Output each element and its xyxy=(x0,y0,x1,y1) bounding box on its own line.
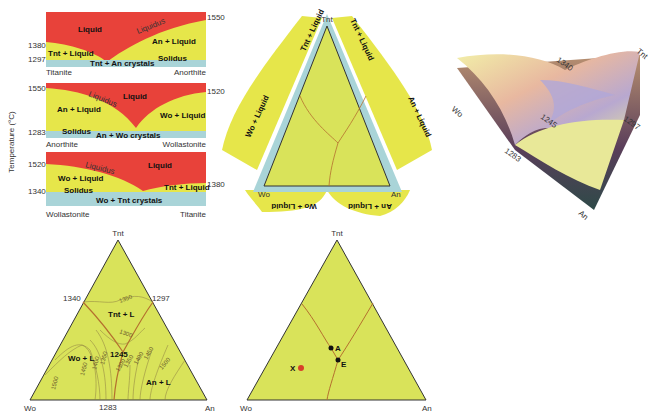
svg-text:Wo + Tnt crystals: Wo + Tnt crystals xyxy=(96,196,163,205)
y-axis-label: Temperature (°C) xyxy=(7,111,16,173)
svg-text:1520: 1520 xyxy=(207,87,225,96)
svg-text:1340: 1340 xyxy=(63,294,81,303)
svg-text:An + L: An + L xyxy=(146,378,171,387)
svg-text:Anorthite: Anorthite xyxy=(174,68,207,77)
svg-text:An: An xyxy=(577,209,590,222)
svg-text:Wo + Liquid: Wo + Liquid xyxy=(160,111,206,120)
svg-text:Liquid: Liquid xyxy=(148,161,172,170)
svg-text:Titanite: Titanite xyxy=(46,68,72,77)
svg-text:Tnt: Tnt xyxy=(112,229,124,238)
svg-text:An: An xyxy=(391,190,401,199)
svg-text:Wo: Wo xyxy=(258,190,270,199)
figure-canvas: Temperature (°C) Liquid Liquidus An + Li… xyxy=(0,0,654,417)
svg-text:X: X xyxy=(290,364,296,373)
svg-text:1297: 1297 xyxy=(152,294,170,303)
binary-panel-an-wo: Liquidus Liquid An + Liquid Wo + Liquid … xyxy=(28,83,225,149)
svg-text:Tnt + An crystals: Tnt + An crystals xyxy=(90,59,155,68)
svg-text:Anorthite: Anorthite xyxy=(46,140,79,149)
svg-text:An + Wo crystals: An + Wo crystals xyxy=(96,131,161,140)
svg-text:An: An xyxy=(205,404,215,413)
svg-text:A: A xyxy=(335,344,341,353)
point-x xyxy=(298,365,304,371)
svg-text:1340: 1340 xyxy=(28,187,46,196)
svg-text:Titanite: Titanite xyxy=(180,210,206,219)
svg-text:1380: 1380 xyxy=(28,41,46,50)
svg-text:1550: 1550 xyxy=(28,84,46,93)
svg-text:1550: 1550 xyxy=(207,13,225,22)
unfolded-ternary: Tnt Wo An Tnt + Liquid Tnt + Liquid Wo +… xyxy=(222,8,433,216)
svg-text:Solidus: Solidus xyxy=(64,186,93,195)
binary-panel-tnt-an: Liquid Liquidus An + Liquid Tnt + Liquid… xyxy=(28,12,225,77)
svg-text:Wo + Liquid: Wo + Liquid xyxy=(271,202,317,211)
svg-text:Solidus: Solidus xyxy=(62,127,91,136)
crystallization-path-diagram: Tnt Wo An X A E xyxy=(240,229,432,413)
svg-text:1283: 1283 xyxy=(99,403,117,412)
svg-text:An: An xyxy=(422,404,432,413)
svg-text:Wo + Liquid: Wo + Liquid xyxy=(58,174,104,183)
svg-text:Tnt: Tnt xyxy=(331,229,343,238)
svg-text:Wollastonite: Wollastonite xyxy=(46,210,90,219)
svg-text:Tnt + L: Tnt + L xyxy=(108,310,135,319)
svg-text:Wo + L: Wo + L xyxy=(68,354,94,363)
svg-text:Tnt + Liquid: Tnt + Liquid xyxy=(164,183,210,192)
svg-text:An + Liquid: An + Liquid xyxy=(348,202,392,211)
liquidus-projection: Tnt Wo An 1340 1297 1283 1245 Tnt + L Wo… xyxy=(24,229,215,413)
svg-text:Liquid: Liquid xyxy=(123,92,147,101)
svg-text:Wo: Wo xyxy=(450,105,465,120)
svg-text:1283: 1283 xyxy=(28,128,46,137)
svg-text:An + Liquid: An + Liquid xyxy=(57,105,101,114)
svg-text:Liquid: Liquid xyxy=(78,25,102,34)
liquidus-surface-3d: Tnt Wo An 1340 1245 1297 1283 xyxy=(450,47,650,222)
binary-panel-wo-tnt: Liquidus Liquid Wo + Liquid Tnt + Liquid… xyxy=(28,152,225,219)
svg-text:1520: 1520 xyxy=(28,160,46,169)
point-a xyxy=(329,346,334,351)
point-e xyxy=(336,358,341,363)
svg-text:1245: 1245 xyxy=(110,350,128,359)
svg-text:1297: 1297 xyxy=(28,55,46,64)
svg-text:Tnt + Liquid: Tnt + Liquid xyxy=(48,49,94,58)
svg-text:E: E xyxy=(341,360,347,369)
svg-text:An + Liquid: An + Liquid xyxy=(152,37,196,46)
svg-text:1380: 1380 xyxy=(207,180,225,189)
svg-text:Wo: Wo xyxy=(24,404,36,413)
svg-text:Wo: Wo xyxy=(240,404,252,413)
svg-text:Solidus: Solidus xyxy=(158,54,187,63)
svg-text:Wollastonite: Wollastonite xyxy=(163,140,207,149)
